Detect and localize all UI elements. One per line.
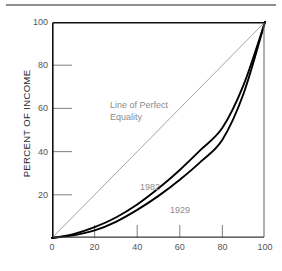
annotation-series-1929: 1929 bbox=[170, 205, 190, 217]
x-axis-tick-labels: 0 20 40 60 80 100 bbox=[52, 243, 265, 257]
x-tick-label-60: 60 bbox=[165, 243, 195, 252]
x-tick-label-40: 40 bbox=[122, 243, 152, 252]
series-line-line-of-perfect-equality bbox=[52, 22, 265, 238]
y-tick-label-60: 60 bbox=[22, 104, 48, 113]
y-tick-label-20: 20 bbox=[22, 191, 48, 200]
series-lines bbox=[52, 22, 265, 238]
top-divider-rule bbox=[6, 4, 276, 6]
annotation-equality-line: Line of Perfect Equality bbox=[110, 100, 168, 123]
x-tick-label-80: 80 bbox=[207, 243, 237, 252]
x-tick-label-0: 0 bbox=[37, 243, 67, 252]
plot-area: Line of Perfect Equality 1982 1929 bbox=[52, 22, 265, 238]
y-axis-tick-labels: 100 80 60 40 20 bbox=[20, 22, 48, 238]
x-tick-label-20: 20 bbox=[80, 243, 110, 252]
lorenz-curve-figure: PERCENT OF INCOME 100 80 60 40 20 0 20 4… bbox=[0, 0, 282, 271]
y-tick-label-100: 100 bbox=[22, 18, 48, 27]
y-tick-label-80: 80 bbox=[22, 61, 48, 70]
x-tick-label-100: 100 bbox=[250, 243, 280, 252]
y-tick-label-40: 40 bbox=[22, 148, 48, 157]
annotation-series-1982: 1982 bbox=[140, 182, 160, 194]
chart-canvas bbox=[52, 22, 265, 238]
